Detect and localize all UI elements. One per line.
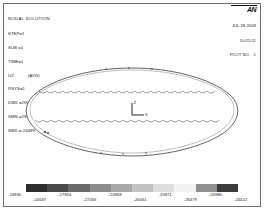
ansys-logo-icon: AN <box>247 6 256 13</box>
axis-triad: Z X <box>128 100 154 122</box>
legend-swatch-9 <box>217 184 238 192</box>
info-step: STEP=1 <box>8 32 50 37</box>
legend-swatch-3 <box>90 184 111 192</box>
legend-tick-label-5: -26461 <box>134 197 147 202</box>
legend-tick-label-4: -24958 <box>108 192 121 197</box>
legend-tick-label-9: -24422 <box>234 197 247 202</box>
legend-swatch-5 <box>132 184 153 192</box>
info-sub: SUB =1 <box>8 46 50 51</box>
legend-swatch-6 <box>153 184 174 192</box>
stamp-date: JUL 18 2009 <box>230 24 256 29</box>
legend-tick-label-7: -25479 <box>184 197 197 202</box>
legend-swatch-8 <box>196 184 217 192</box>
stamp-time: 10:25:11 <box>230 39 256 44</box>
legend-swatch-1 <box>47 184 68 192</box>
ansys-plot-window: NODAL SOLUTION STEP=1 SUB =1 TIME=1 UZ(A… <box>0 0 264 210</box>
legend-tick-label-6: -25971 <box>159 192 172 197</box>
page-title: NODAL SOLUTION <box>8 17 50 22</box>
legend-tick-label-2: -27944 <box>58 192 71 197</box>
contour-legend-bar[interactable] <box>26 184 238 192</box>
legend-tick-label-0: -24930 <box>8 192 21 197</box>
legend-swatch-7 <box>174 184 195 192</box>
legend-swatch-0 <box>26 184 47 192</box>
legend-tick-label-8: -24986 <box>209 192 222 197</box>
x-axis-label: X <box>145 112 148 117</box>
legend-swatch-4 <box>111 184 132 192</box>
contour-legend-labels: -24930-24637-27944-27456-24958-26461-259… <box>5 192 259 204</box>
stamp-plot-no: PLOT NO. 1 <box>230 53 256 58</box>
z-axis-label: Z <box>134 100 137 105</box>
legend-tick-label-1: -24637 <box>33 197 46 202</box>
legend-tick-label-3: -27456 <box>83 197 96 202</box>
legend-swatch-2 <box>68 184 89 192</box>
